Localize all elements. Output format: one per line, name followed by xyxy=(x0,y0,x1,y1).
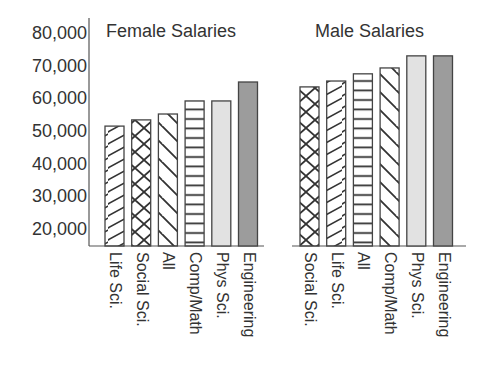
y-tick-label: 70,000 xyxy=(32,57,87,75)
y-tick-label: 80,000 xyxy=(32,24,87,42)
x-tick-label: Life Sci. xyxy=(106,252,124,309)
bar-female-social-sci xyxy=(132,120,151,246)
female-group-title: Female Salaries xyxy=(106,21,236,41)
x-tick-label: Phys Sci. xyxy=(408,252,426,319)
y-tick-label: 60,000 xyxy=(32,89,87,107)
bar-female-life-sci xyxy=(105,126,124,246)
x-tick-label: All xyxy=(354,252,372,270)
bar-female-phys-sci xyxy=(212,101,231,246)
male-group-title: Male Salaries xyxy=(315,21,424,41)
y-tick-label: 30,000 xyxy=(32,187,87,205)
x-tick-label: Engineering xyxy=(240,252,258,337)
bar-female-comp-math xyxy=(185,101,204,246)
bar-male-comp-math xyxy=(380,68,399,246)
salary-bar-chart: 20,00030,00040,00050,00060,00070,00080,0… xyxy=(0,0,477,386)
bar-male-social-sci xyxy=(300,87,319,246)
x-tick-label: Comp/Math xyxy=(186,252,204,335)
x-tick-label: Engineering xyxy=(435,252,453,337)
bar-male-life-sci xyxy=(327,81,346,246)
bar-female-engineering xyxy=(239,82,258,246)
y-tick-label: 50,000 xyxy=(32,122,87,140)
bar-female-all xyxy=(158,114,177,246)
y-tick-label: 40,000 xyxy=(32,155,87,173)
x-tick-label: Social Sci. xyxy=(133,252,151,327)
x-tick-label: All xyxy=(159,252,177,270)
x-tick-label: Social Sci. xyxy=(301,252,319,327)
bar-male-all xyxy=(353,74,372,246)
bar-male-phys-sci xyxy=(407,56,426,246)
y-tick-label: 20,000 xyxy=(32,220,87,238)
bar-male-engineering xyxy=(434,56,453,246)
bars xyxy=(105,56,453,246)
x-tick-label: Comp/Math xyxy=(381,252,399,335)
x-tick-label: Phys Sci. xyxy=(213,252,231,319)
x-tick-label: Life Sci. xyxy=(328,252,346,309)
